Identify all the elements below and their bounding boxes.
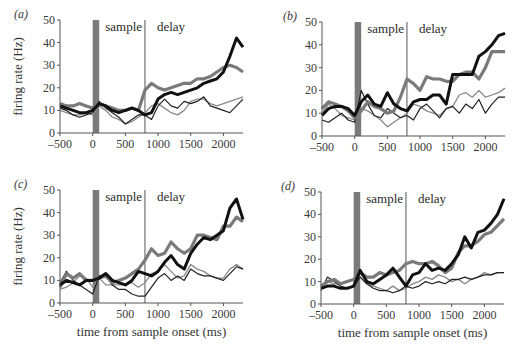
x-tick-label: –500	[47, 307, 72, 321]
x-tick-label: 0	[351, 308, 357, 322]
x-tick-label: 2000	[211, 307, 235, 321]
sample-period-bar	[93, 20, 100, 133]
x-tick-label: 1500	[440, 308, 464, 322]
x-tick-label: 500	[378, 140, 396, 154]
x-tick-label: 1000	[408, 140, 432, 154]
x-axis-title: time from sample onset (ms)	[77, 324, 226, 339]
series-thin-black	[322, 90, 505, 122]
y-tick-label: 10	[43, 103, 55, 117]
series-thick-gray	[60, 65, 243, 110]
delay-label: delay	[157, 19, 186, 34]
sample-label: sample	[366, 191, 403, 206]
x-tick-label: –500	[309, 140, 334, 154]
panel-label: (a)	[14, 7, 28, 21]
panel-b: sampledelay01020304050–50005001000150020…	[283, 9, 505, 154]
delay-label: delay	[419, 21, 448, 36]
y-tick-label: 10	[305, 106, 317, 120]
y-tick-label: 40	[305, 38, 317, 52]
x-tick-label: 2000	[473, 140, 497, 154]
figure-canvas: sampledelay01020304050–50005001000150020…	[0, 0, 515, 351]
series-thick-black	[60, 38, 243, 115]
panel-d: sampledelay01020304050–50005001000150020…	[281, 179, 504, 340]
panel-label: (d)	[281, 179, 295, 193]
y-tick-label: 10	[43, 273, 55, 287]
x-tick-label: 2000	[472, 308, 496, 322]
x-tick-label: 1500	[179, 307, 203, 321]
y-tick-label: 30	[43, 58, 55, 72]
y-tick-label: 50	[43, 183, 55, 197]
x-tick-label: 1000	[407, 308, 431, 322]
x-tick-label: 500	[116, 137, 134, 151]
y-tick-label: 20	[43, 81, 55, 95]
sample-label: sample	[105, 19, 142, 34]
y-axis-title: firing rate (Hz)	[10, 207, 25, 286]
series-thick-black	[60, 199, 243, 285]
x-tick-label: –500	[47, 137, 72, 151]
delay-label: delay	[157, 189, 186, 204]
x-tick-label: 1500	[179, 137, 203, 151]
x-tick-label: 0	[90, 137, 96, 151]
panel-label: (c)	[14, 177, 27, 191]
series-thick-black	[322, 33, 505, 115]
y-tick-label: 40	[304, 207, 316, 221]
x-tick-label: 0	[90, 307, 96, 321]
panel-a: sampledelay01020304050–50005001000150020…	[10, 7, 243, 151]
y-tick-label: 50	[305, 15, 317, 29]
delay-label: delay	[418, 191, 447, 206]
x-tick-label: 1500	[441, 140, 465, 154]
y-tick-label: 20	[304, 252, 316, 266]
x-tick-label: 1000	[146, 307, 170, 321]
y-tick-label: 20	[43, 251, 55, 265]
x-axis-title: time from sample onset (ms)	[338, 325, 487, 340]
y-tick-label: 30	[43, 228, 55, 242]
panel-c: sampledelay01020304050–50005001000150020…	[10, 177, 243, 339]
y-tick-label: 50	[304, 185, 316, 199]
x-tick-label: 0	[352, 140, 358, 154]
sample-label: sample	[105, 189, 142, 204]
y-axis-title: firing rate (Hz)	[10, 37, 25, 116]
x-tick-label: 500	[377, 308, 395, 322]
sample-label: sample	[367, 21, 404, 36]
x-tick-label: 500	[116, 307, 134, 321]
panel-label: (b)	[283, 9, 297, 23]
y-tick-label: 30	[305, 61, 317, 75]
x-tick-label: 2000	[211, 137, 235, 151]
y-tick-label: 10	[304, 275, 316, 289]
y-tick-label: 30	[304, 230, 316, 244]
x-tick-label: 1000	[146, 137, 170, 151]
y-tick-label: 20	[305, 83, 317, 97]
y-tick-label: 50	[43, 13, 55, 27]
y-tick-label: 40	[43, 206, 55, 220]
x-tick-label: –500	[308, 308, 333, 322]
y-tick-label: 40	[43, 36, 55, 50]
